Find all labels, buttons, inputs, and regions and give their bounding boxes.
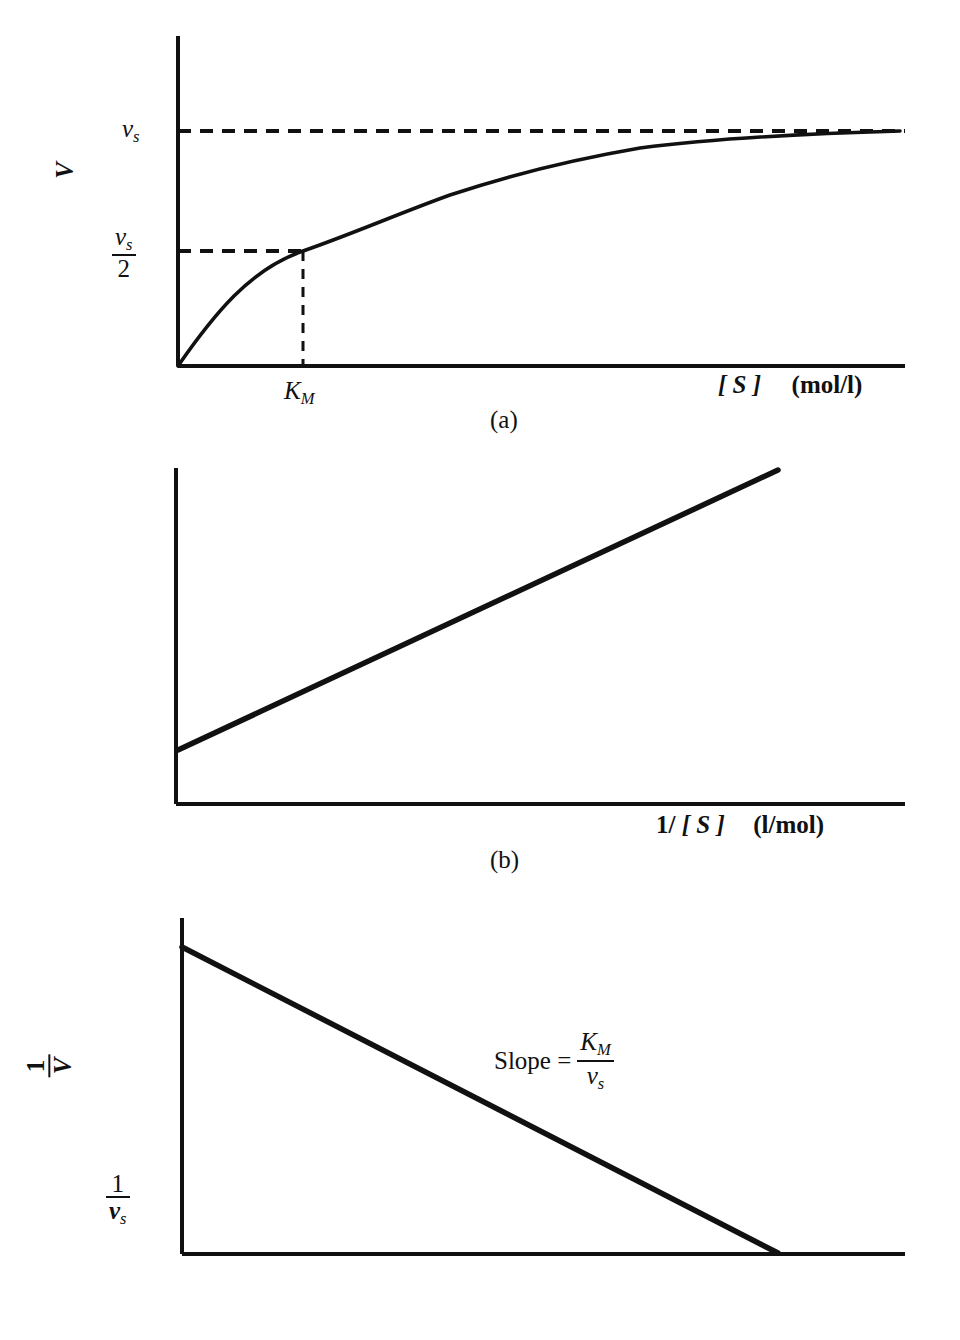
panel-b: 1 V 1 vs Slope = KM vs 1/ [ S ] (l/mol) … bbox=[0, 450, 960, 890]
panel-a-curve bbox=[178, 131, 900, 366]
panel-b-line bbox=[178, 470, 778, 750]
panel-a: V vs vs 2 KM [ S ] (mol/l) (a) bbox=[0, 0, 960, 450]
panel-a-x-axis-label: [ S ] (mol/l) bbox=[718, 372, 862, 397]
panel-c: k2/KM V [ E ]o[ S ] Slope = 1 KM V/[ E ]… bbox=[0, 890, 960, 1340]
panel-a-y-axis-label: V bbox=[52, 151, 77, 191]
panel-b-caption: (b) bbox=[490, 846, 519, 874]
panel-a-caption: (a) bbox=[490, 406, 518, 434]
panel-a-ytick-half-vs: vs 2 bbox=[112, 224, 136, 281]
panel-c-line bbox=[182, 947, 778, 1253]
panel-a-ytick-vs: vs bbox=[122, 116, 140, 146]
panel-b-x-axis-label: 1/ [ S ] (l/mol) bbox=[656, 812, 824, 837]
panel-c-plot bbox=[0, 890, 960, 1340]
panel-a-xtick-km: KM bbox=[284, 378, 314, 408]
